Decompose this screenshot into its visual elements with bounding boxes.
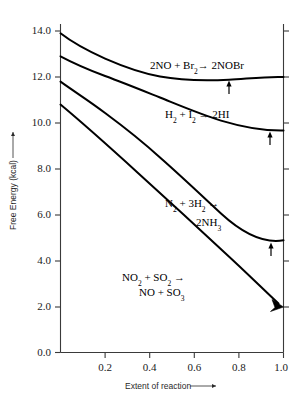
x-tick-label-1-0: 1.0 — [274, 361, 288, 373]
y-axis-title-group: Free Energy (kcal) — [8, 132, 18, 230]
y-tick-label-10: 10.0 — [32, 116, 52, 128]
chart-svg: 14.0 12.0 10.0 8.0 6.0 4.0 2.0 0.0 — [0, 0, 305, 407]
x-axis-title: Extent of reaction — [125, 381, 191, 391]
minimum-arrow-curve2 — [267, 132, 272, 146]
x-axis-tick-labels: 0.2 0.4 0.6 0.8 1.0 — [98, 361, 288, 373]
x-axis-title-group: Extent of reaction — [125, 381, 216, 391]
x-tick-label-0-4: 0.4 — [143, 361, 157, 373]
y-axis-tick-labels: 14.0 12.0 10.0 8.0 6.0 4.0 2.0 0.0 — [32, 24, 52, 358]
minimum-arrow-curve3-head — [268, 243, 273, 249]
y-tick-label-2: 2.0 — [37, 300, 51, 312]
curve-label-n2-3h2-line1: N2 + 3H2 → — [165, 197, 219, 214]
right-axis-ticks — [284, 31, 290, 307]
curve-label-h2-i2-2hi: H2 + I2 → 2HI — [165, 108, 230, 125]
curve-label-no2-so2-line2: NO + SO3 — [139, 286, 185, 303]
y-axis-title-arrowhead — [11, 132, 15, 136]
x-tick-label-0-2: 0.2 — [98, 361, 112, 373]
minimum-arrow-curve2-head — [267, 132, 272, 138]
x-tick-label-0-8: 0.8 — [232, 361, 246, 373]
x-axis-ticks — [105, 353, 283, 359]
x-axis-title-arrowhead — [212, 384, 216, 388]
minimum-arrow-curve3 — [268, 243, 273, 257]
y-tick-label-12: 12.0 — [32, 70, 52, 82]
y-tick-label-14: 14.0 — [32, 24, 52, 36]
curve-2no-br2-2nobr — [61, 33, 284, 80]
minimum-arrow-curve1 — [226, 81, 231, 95]
y-tick-label-4: 4.0 — [37, 254, 51, 266]
free-energy-chart-figure: 14.0 12.0 10.0 8.0 6.0 4.0 2.0 0.0 — [0, 0, 305, 407]
y-axis-ticks — [55, 31, 61, 353]
y-axis-title: Free Energy (kcal) — [8, 160, 18, 230]
y-tick-label-0: 0.0 — [37, 346, 51, 358]
curve-n2-3h2-2nh3 — [61, 82, 284, 241]
minimum-arrow-curve1-head — [226, 81, 231, 87]
y-tick-label-6: 6.0 — [37, 208, 51, 220]
x-tick-label-0-6: 0.6 — [187, 361, 201, 373]
curve-label-2no-br2-2nobr: 2NO + Br2→ 2NOBr — [150, 59, 244, 76]
y-tick-label-8: 8.0 — [37, 162, 51, 174]
